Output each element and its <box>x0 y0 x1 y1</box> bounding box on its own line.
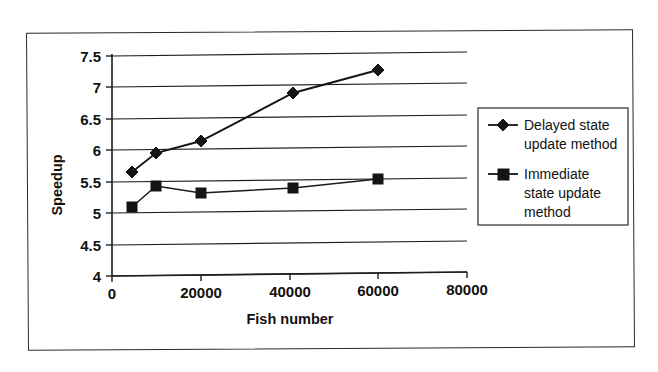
y-tick-label-7.5: 7.5 <box>80 48 101 65</box>
legend-label-immediate-line3: method <box>524 204 571 220</box>
legend-label-immediate-line1: Immediate <box>524 166 590 182</box>
gridline-6.5 <box>112 115 467 119</box>
series-delayed-state-update <box>126 64 384 178</box>
x-tick-label-0: 0 <box>108 285 116 302</box>
y-tick-label-5.5: 5.5 <box>80 174 101 191</box>
gridline-5 <box>112 209 467 213</box>
legend-label-delayed-line1: Delayed state <box>524 117 610 133</box>
square-marker-icon <box>498 169 509 180</box>
data-point-delayed-4 <box>372 64 384 76</box>
data-point-immediate-4 <box>373 174 383 184</box>
legend-label-immediate-line2: state update <box>524 185 601 201</box>
data-point-delayed-3 <box>287 87 299 99</box>
x-axis-tick-labels: 0 20000 40000 60000 80000 <box>108 281 488 302</box>
data-point-immediate-0 <box>127 202 137 212</box>
speedup-line-chart: 7.5 7 6.5 6 5.5 5 4.5 4 0 20000 40000 60… <box>0 0 658 372</box>
gridline-7.5 <box>112 52 467 56</box>
y-axis-title: Speedup <box>49 154 65 215</box>
x-axis-title: Fish number <box>246 311 333 327</box>
data-point-delayed-2 <box>195 135 207 147</box>
gridline-4.5 <box>112 241 467 245</box>
gridline-5.5 <box>112 178 467 182</box>
gridline-6 <box>112 146 467 150</box>
series-immediate-line <box>132 179 378 207</box>
y-tick-label-5: 5 <box>93 205 101 222</box>
y-tick-label-7: 7 <box>93 79 101 96</box>
y-tick-label-4.5: 4.5 <box>80 237 101 254</box>
x-tick-label-60000: 60000 <box>357 282 399 299</box>
y-tick-label-6: 6 <box>93 142 101 159</box>
data-point-immediate-1 <box>151 181 161 191</box>
y-tick-label-6.5: 6.5 <box>80 111 101 128</box>
chart-figure: 7.5 7 6.5 6 5.5 5 4.5 4 0 20000 40000 60… <box>0 0 658 372</box>
gridlines <box>112 52 467 276</box>
y-axis-tick-labels: 7.5 7 6.5 6 5.5 5 4.5 4 <box>80 48 102 285</box>
x-tick-label-40000: 40000 <box>269 283 311 300</box>
gridline-7 <box>112 83 467 87</box>
y-axis-ticks <box>106 56 112 276</box>
data-point-immediate-3 <box>288 183 298 193</box>
x-tick-label-80000: 80000 <box>446 281 488 298</box>
legend-label-delayed-line2: update method <box>524 136 617 152</box>
x-tick-label-20000: 20000 <box>180 284 222 301</box>
chart-legend: Delayed state update method Immediate st… <box>478 108 628 225</box>
data-point-immediate-2 <box>196 188 206 198</box>
y-tick-label-4: 4 <box>93 268 102 285</box>
